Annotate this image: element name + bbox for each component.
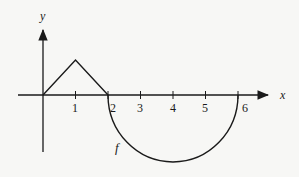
graph-of-f: x y 1 2 3 4 5 6 f: [0, 0, 299, 177]
x-axis-label: x: [279, 88, 286, 102]
x-tick-label-5: 5: [202, 101, 208, 115]
x-tick-label-1: 1: [72, 101, 78, 115]
y-axis-label: y: [39, 9, 46, 23]
curve-label-f: f: [115, 140, 121, 155]
x-tick-label-6: 6: [242, 101, 248, 115]
curve-f-triangle: [43, 60, 108, 95]
x-tick-labels: 1 2 3 4 5 6: [72, 101, 248, 115]
x-tick-label-4: 4: [170, 101, 176, 115]
x-tick-label-3: 3: [137, 101, 143, 115]
